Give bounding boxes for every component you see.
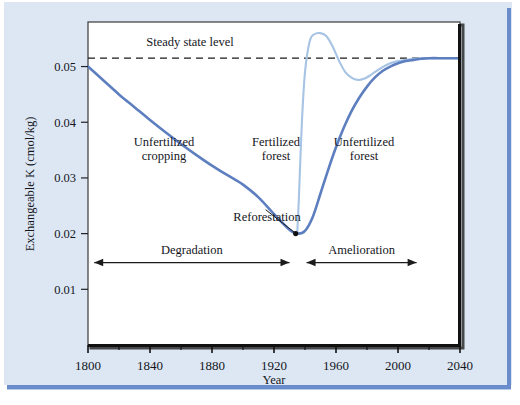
y-axis-ticks (81, 67, 88, 290)
y-tick-label: 0.02 (54, 227, 76, 241)
y-axis-label: Exchangeable K (cmol/kg) (23, 117, 37, 252)
steady-state-level-label: Steady state level (146, 35, 234, 49)
x-tick-label: 2040 (447, 358, 473, 373)
x-tick-label: 2000 (385, 358, 411, 373)
x-tick-label: 1920 (261, 358, 287, 373)
y-tick-label: 0.05 (54, 60, 76, 74)
amelioration-label: Amelioration (328, 243, 395, 257)
x-tick-label: 1880 (199, 358, 225, 373)
y-axis-tick-labels: 0.010.020.030.040.05 (54, 60, 77, 297)
y-tick-label: 0.01 (54, 283, 76, 297)
x-axis-tick-labels: 1800184018801920196020002040 (75, 358, 473, 373)
unfertilized-forest-label-line1: Unfertilized (334, 135, 395, 149)
y-tick-label: 0.04 (54, 116, 77, 130)
degradation-label: Degradation (161, 243, 224, 257)
reforestation-point (293, 231, 298, 236)
x-tick-label: 1960 (323, 358, 349, 373)
exchangeable-k-line-chart: 0.010.020.030.040.05 1800184018801920196… (0, 0, 520, 405)
x-tick-label: 1840 (137, 358, 163, 373)
plot-frame (88, 22, 460, 345)
x-tick-label: 1800 (75, 358, 101, 373)
y-tick-label: 0.03 (54, 171, 76, 185)
unfertilized-cropping-label-line2: cropping (142, 149, 187, 163)
fertilized-forest-label-line1: Fertilized (252, 135, 301, 149)
x-axis-label: Year (262, 373, 286, 387)
unfertilized-cropping-label-line1: Unfertilized (134, 135, 195, 149)
figure-page: 0.010.020.030.040.05 1800184018801920196… (0, 0, 520, 405)
fertilized-forest-label-line2: forest (262, 149, 291, 163)
unfertilized-forest-label-line2: forest (350, 149, 379, 163)
reforestation-label: Reforestation (233, 210, 301, 224)
